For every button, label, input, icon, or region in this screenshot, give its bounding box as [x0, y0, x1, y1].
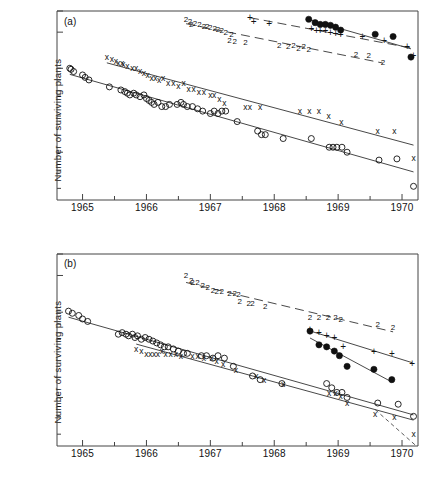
data-point-2: 2	[354, 50, 359, 59]
data-point-2: 2	[317, 313, 322, 322]
data-point-filled-circle	[390, 33, 396, 39]
data-point-open-circle	[394, 156, 400, 162]
data-point-x: x	[254, 371, 259, 381]
data-point-x: x	[376, 126, 381, 136]
data-point-2: 2	[250, 299, 255, 308]
data-point-filled-circle	[324, 344, 330, 350]
data-point-2: 2	[232, 37, 237, 46]
data-point-filled-circle	[306, 16, 312, 22]
data-point-2: 2	[238, 297, 243, 306]
data-point-+: +	[251, 16, 257, 27]
data-point-x: x	[195, 351, 200, 361]
data-point-x: x	[262, 375, 267, 385]
data-point-+: +	[324, 330, 330, 341]
data-point-open-circle	[142, 335, 148, 341]
data-point-x: x	[298, 106, 303, 116]
data-point-2: 2	[277, 41, 282, 50]
data-point-2: 2	[220, 287, 225, 296]
data-point-+: +	[409, 358, 415, 369]
data-point-filled-circle	[372, 31, 378, 37]
panel-a: Number of surviving plants (a) 150100501…	[0, 0, 428, 240]
data-point-+: +	[381, 35, 387, 46]
data-point-filled-circle	[344, 363, 350, 369]
data-point-open-circle	[223, 108, 229, 114]
data-point-2: 2	[263, 302, 268, 311]
data-point-open-circle	[118, 87, 124, 93]
data-point-open-circle	[85, 318, 91, 324]
data-point-2: 2	[307, 45, 312, 54]
data-point-x: x	[258, 102, 263, 112]
data-point-2: 2	[243, 38, 248, 47]
data-point-2: 2	[338, 315, 343, 324]
panel-a-plot-area: 2222222222222222222222222++++++++++++++x…	[0, 0, 428, 240]
data-point-x: x	[411, 429, 416, 439]
data-point-+: +	[340, 341, 346, 352]
data-point-2: 2	[381, 58, 386, 67]
data-point-2: 2	[367, 51, 372, 60]
data-point-x: x	[202, 87, 207, 97]
data-point-x: x	[307, 106, 312, 116]
data-point-open-circle	[255, 128, 261, 134]
data-point-open-circle	[324, 381, 330, 387]
data-point-filled-circle	[316, 342, 322, 348]
data-point-2: 2	[308, 313, 313, 322]
data-point-open-circle	[262, 132, 268, 138]
data-point-2: 2	[326, 313, 331, 322]
figure-root: Number of surviving plants (a) 150100501…	[0, 0, 428, 483]
data-point-filled-circle	[408, 54, 414, 60]
data-point-open-circle	[115, 331, 121, 337]
data-point-open-circle	[106, 84, 112, 90]
data-point-open-circle	[280, 136, 286, 142]
data-point-x: x	[222, 98, 227, 108]
data-point-+: +	[266, 18, 272, 29]
data-point-x: x	[339, 117, 344, 127]
data-point-x: x	[317, 106, 322, 116]
data-point-filled-circle	[389, 377, 395, 383]
data-point-+: +	[331, 332, 337, 343]
data-point-2: 2	[391, 323, 396, 332]
data-point-+: +	[359, 31, 365, 42]
data-point-x: x	[326, 111, 331, 121]
data-point-x: x	[373, 409, 378, 419]
data-point-open-circle	[76, 312, 82, 318]
data-point-+: +	[389, 348, 395, 359]
data-point-open-circle	[138, 336, 144, 342]
data-point-open-circle	[308, 136, 314, 142]
data-point-filled-circle	[338, 27, 344, 33]
data-point-+: +	[316, 327, 322, 338]
data-point-filled-circle	[371, 366, 377, 372]
data-point-x: x	[392, 126, 397, 136]
data-point-+: +	[404, 41, 410, 52]
data-point-x: x	[411, 153, 416, 163]
data-point-x: x	[392, 412, 397, 422]
panel-b: Number of surviving plants (b) 150100501…	[0, 240, 428, 483]
data-point-filled-circle	[331, 348, 337, 354]
data-point-+: +	[371, 346, 377, 357]
data-point-open-circle	[411, 413, 417, 419]
trend-line	[70, 74, 414, 172]
panel-b-plot-area: 22222222222222222222222++++++++xxxxxxxxx…	[0, 240, 428, 483]
data-point-open-circle	[411, 183, 417, 189]
data-point-x: x	[327, 388, 332, 398]
data-point-2: 2	[376, 320, 381, 329]
data-point-filled-circle	[336, 353, 342, 359]
data-point-filled-circle	[307, 328, 313, 334]
data-point-x: x	[248, 102, 253, 112]
data-point-open-circle	[395, 401, 401, 407]
